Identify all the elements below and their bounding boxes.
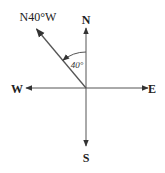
bearing-label: N40°W <box>20 10 57 24</box>
south-label: S <box>83 151 90 165</box>
west-label: W <box>11 82 23 96</box>
compass-diagram: N S E W N40°W 40° <box>0 0 165 173</box>
bearing-arrow <box>37 29 87 88</box>
angle-label: 40° <box>71 60 84 70</box>
east-label: E <box>148 82 156 96</box>
north-label: N <box>82 13 91 27</box>
